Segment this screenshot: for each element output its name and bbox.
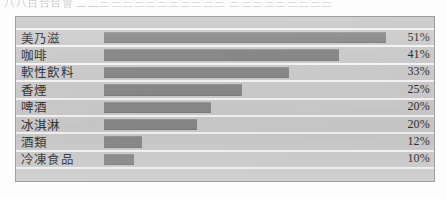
row-label: 冰淇淋 — [21, 115, 61, 134]
bar-track — [104, 84, 386, 95]
row-value: 12% — [407, 134, 430, 149]
table-row: 啤酒 20% — [16, 100, 434, 117]
bar — [104, 32, 386, 43]
row-label: 冷凍食品 — [21, 150, 74, 169]
row-value: 20% — [407, 99, 430, 114]
row-label: 啤酒 — [21, 97, 47, 116]
chart-rows: 美乃滋 51% 咖啡 41% 軟性飲料 33% 香煙 25% — [16, 30, 434, 181]
bar — [104, 119, 197, 130]
page-top-text-fragment: 八八百合合會 二二三三三三三三三三三三三 三三三三三三三三三 — [0, 0, 447, 9]
bar — [104, 49, 339, 60]
chart-header-band — [16, 17, 434, 30]
row-value: 25% — [407, 82, 430, 97]
bar — [104, 102, 211, 113]
bar-track — [104, 119, 386, 130]
bar-chart: 美乃滋 51% 咖啡 41% 軟性飲料 33% 香煙 25% — [15, 16, 435, 182]
bar — [104, 84, 242, 95]
table-row: 冰淇淋 20% — [16, 117, 434, 134]
bar — [104, 136, 142, 147]
bar-track — [104, 67, 386, 78]
bar-track — [104, 32, 386, 43]
row-label: 軟性飲料 — [21, 63, 74, 82]
row-value: 10% — [407, 152, 430, 167]
row-label: 香煙 — [21, 80, 47, 99]
row-label: 酒類 — [21, 132, 47, 151]
table-row: 酒類 12% — [16, 134, 434, 151]
row-value: 33% — [407, 65, 430, 80]
row-value: 51% — [407, 30, 430, 45]
cut-off-text-line: 八八百合合會 二二三三三三三三三三三三三 三三三三三三三三三 — [4, 0, 333, 9]
bar-track — [104, 49, 386, 60]
table-row: 冷凍食品 10% — [16, 152, 434, 169]
row-label: 咖啡 — [21, 45, 47, 64]
table-row: 咖啡 41% — [16, 47, 434, 64]
row-value: 20% — [407, 117, 430, 132]
bar — [104, 67, 289, 78]
bar-track — [104, 136, 386, 147]
bar — [104, 154, 134, 165]
table-row: 軟性飲料 33% — [16, 65, 434, 82]
table-row: 美乃滋 51% — [16, 30, 434, 47]
row-value: 41% — [407, 47, 430, 62]
bar-track — [104, 154, 386, 165]
bar-track — [104, 102, 386, 113]
table-row: 香煙 25% — [16, 82, 434, 99]
row-label: 美乃滋 — [21, 28, 61, 47]
